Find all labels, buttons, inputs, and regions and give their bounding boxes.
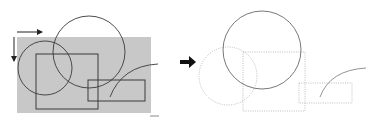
result-arc-curve	[320, 68, 366, 97]
diagram-canvas	[0, 0, 375, 124]
left-panel	[14, 16, 159, 116]
right-arrow-icon	[180, 56, 196, 68]
right-panel	[199, 11, 366, 111]
clipping-diagram	[0, 0, 375, 124]
result-large-circle	[223, 11, 301, 89]
clip-region	[17, 37, 151, 113]
result-small-circle	[199, 47, 257, 105]
